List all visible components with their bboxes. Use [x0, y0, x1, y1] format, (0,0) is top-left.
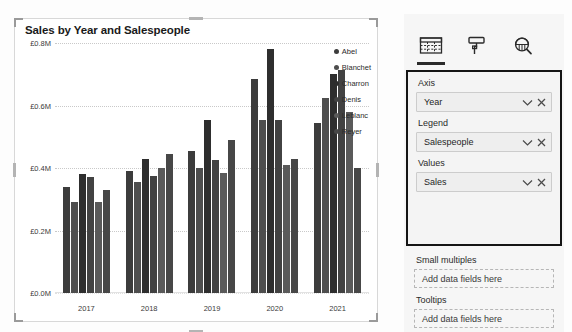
bar-Denis-2019[interactable]	[212, 160, 219, 293]
chevron-down-icon[interactable]	[522, 98, 533, 107]
field-chip-legend[interactable]: Salespeople	[416, 132, 552, 152]
field-dropzone-tooltips[interactable]: Add data fields here	[414, 309, 554, 328]
bar-Denis-2020[interactable]	[275, 120, 282, 293]
bar-Leblanc-2021[interactable]	[346, 112, 353, 293]
bar-Abel-2019[interactable]	[188, 151, 195, 293]
field-chip-remove-button[interactable]	[537, 133, 546, 151]
y-axis-tick-label: £0.4M	[30, 164, 51, 173]
bar-Abel-2018[interactable]	[126, 171, 133, 293]
chart-visual-container[interactable]: Sales by Year and Salespeople £0.8M£0.6M…	[14, 18, 378, 322]
field-wells-remaining: Small multiplesAdd data fields hereToolt…	[406, 248, 562, 328]
field-well-title-legend: Legend	[408, 112, 560, 132]
field-chip-expand-button[interactable]	[522, 133, 533, 151]
close-icon[interactable]	[537, 98, 546, 107]
field-well-tooltips: TooltipsAdd data fields here	[406, 288, 562, 328]
viz-pane-tabs	[404, 28, 564, 64]
bar-group-2020[interactable]: 2020	[243, 43, 306, 293]
field-well-title-axis: Axis	[408, 72, 560, 92]
bar-Leblanc-2018[interactable]	[158, 168, 165, 293]
field-chip-values[interactable]: Sales	[416, 172, 552, 192]
x-axis-label-2019: 2019	[181, 304, 244, 313]
bar-Reyer-2020[interactable]	[291, 159, 298, 293]
bar-Leblanc-2017[interactable]	[95, 202, 102, 293]
field-dropzone-placeholder: Add data fields here	[422, 274, 502, 284]
gridline	[55, 293, 369, 294]
legend-item-denis[interactable]: Denis	[334, 95, 371, 104]
field-well-values: ValuesSales	[408, 152, 560, 192]
legend-item-abel[interactable]: Abel	[334, 47, 371, 56]
legend-item-label: Blanchet	[342, 63, 371, 72]
legend-item-leblanc[interactable]: Leblanc	[334, 111, 371, 120]
tab-analytics[interactable]	[510, 34, 536, 58]
visualizations-pane: AxisYearLegendSalespeopleValuesSales Sma…	[404, 14, 564, 332]
bar-group-2018[interactable]: 2018	[118, 43, 181, 293]
resize-handle-top-left-v[interactable]	[14, 18, 16, 27]
chevron-down-icon[interactable]	[522, 138, 533, 147]
bar-Blanchet-2018[interactable]	[134, 182, 141, 293]
field-well-small-multiples: Small multiplesAdd data fields here	[406, 248, 562, 288]
bar-Reyer-2021[interactable]	[354, 168, 361, 293]
legend-item-label: Charron	[342, 79, 369, 88]
field-chip-label: Sales	[424, 177, 447, 187]
resize-handle-bottom-left-v[interactable]	[14, 313, 16, 322]
bar-Charron-2019[interactable]	[204, 120, 211, 293]
tab-format[interactable]	[464, 34, 490, 58]
x-axis-label-2018: 2018	[118, 304, 181, 313]
active-tab-indicator	[417, 62, 445, 65]
bar-Blanchet-2017[interactable]	[71, 202, 78, 293]
legend-item-charron[interactable]: Charron	[334, 79, 371, 88]
chart-legend[interactable]: AbelBlanchetCharronDenisLeblancReyer	[334, 47, 371, 136]
bar-Charron-2017[interactable]	[79, 174, 86, 293]
field-chip-remove-button[interactable]	[537, 93, 546, 111]
field-chip-expand-button[interactable]	[522, 173, 533, 191]
tab-fields[interactable]	[418, 34, 444, 58]
field-well-title-small-multiples: Small multiples	[406, 248, 562, 269]
bar-Denis-2017[interactable]	[87, 177, 94, 293]
field-well-title-tooltips: Tooltips	[406, 288, 562, 309]
legend-swatch-icon	[334, 97, 339, 102]
bar-Leblanc-2019[interactable]	[220, 173, 227, 293]
field-chip-label: Year	[424, 97, 442, 107]
bar-Blanchet-2021[interactable]	[322, 98, 329, 293]
bar-Blanchet-2019[interactable]	[196, 168, 203, 293]
field-chip-axis[interactable]: Year	[416, 92, 552, 112]
bar-Abel-2021[interactable]	[314, 123, 321, 293]
field-well-legend: LegendSalespeople	[408, 112, 560, 152]
bar-Blanchet-2020[interactable]	[259, 120, 266, 293]
resize-handle-top-right-v[interactable]	[376, 18, 378, 27]
chevron-down-icon[interactable]	[522, 178, 533, 187]
resize-handle-right[interactable]	[376, 163, 379, 177]
field-chip-remove-button[interactable]	[537, 173, 546, 191]
legend-item-label: Denis	[342, 95, 361, 104]
bar-Abel-2020[interactable]	[251, 79, 258, 293]
bar-Leblanc-2020[interactable]	[283, 165, 290, 293]
legend-swatch-icon	[334, 65, 339, 70]
bar-Charron-2020[interactable]	[267, 49, 274, 293]
field-chip-actions	[522, 133, 546, 151]
field-wells-highlight-box: AxisYearLegendSalespeopleValuesSales	[406, 70, 562, 246]
bar-Denis-2018[interactable]	[150, 176, 157, 293]
chart-plot-area: £0.8M£0.6M£0.4M£0.2M£0.0M201720182019202…	[55, 43, 369, 293]
legend-swatch-icon	[334, 129, 339, 134]
legend-item-label: Abel	[342, 47, 357, 56]
field-well-title-values: Values	[408, 152, 560, 172]
bar-Reyer-2019[interactable]	[228, 140, 235, 293]
y-axis-tick-label: £0.8M	[30, 39, 51, 48]
bar-Reyer-2018[interactable]	[166, 154, 173, 293]
resize-handle-top[interactable]	[189, 17, 203, 20]
bar-Reyer-2017[interactable]	[103, 190, 110, 293]
field-dropzone-small-multiples[interactable]: Add data fields here	[414, 269, 554, 288]
legend-item-reyer[interactable]: Reyer	[334, 127, 371, 136]
bar-Abel-2017[interactable]	[63, 187, 70, 293]
bar-group-2019[interactable]: 2019	[181, 43, 244, 293]
x-axis-label-2021: 2021	[306, 304, 369, 313]
bar-group-2017[interactable]: 2017	[55, 43, 118, 293]
close-icon[interactable]	[537, 138, 546, 147]
x-axis-label-2020: 2020	[243, 304, 306, 313]
bar-Charron-2018[interactable]	[142, 159, 149, 293]
legend-item-blanchet[interactable]: Blanchet	[334, 63, 371, 72]
resize-handle-left[interactable]	[13, 163, 16, 177]
field-chip-expand-button[interactable]	[522, 93, 533, 111]
close-icon[interactable]	[537, 178, 546, 187]
resize-handle-bottom-right-v[interactable]	[376, 313, 378, 322]
